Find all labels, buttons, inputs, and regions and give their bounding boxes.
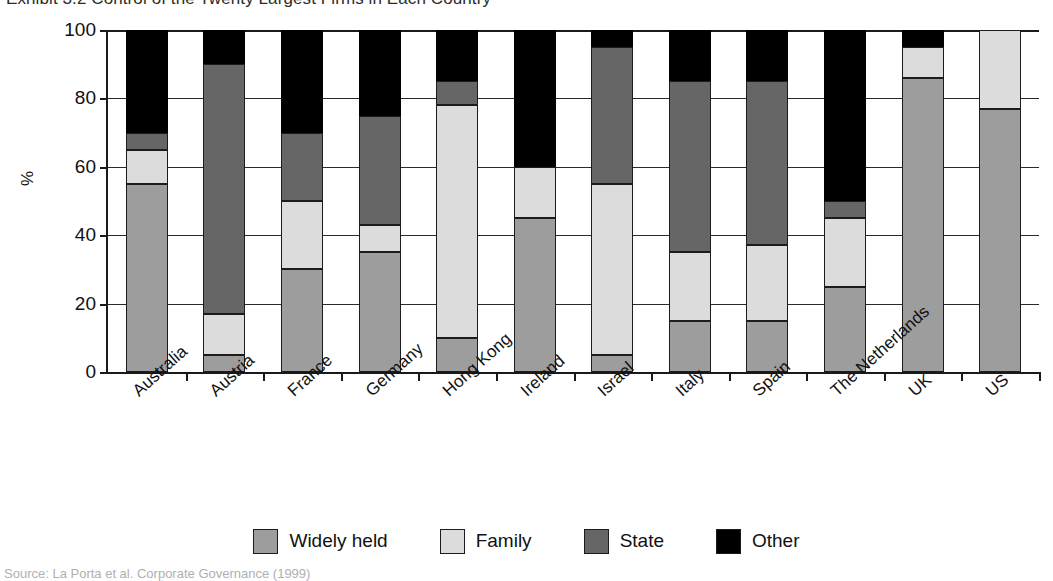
legend-swatch-family-icon: [440, 529, 465, 554]
bar-segment-other[interactable]: [281, 30, 323, 133]
gridline-40: [108, 235, 1039, 236]
x-axis-label-us: US: [982, 370, 1013, 401]
y-tick-40: [100, 235, 108, 237]
bar-segment-widely-held[interactable]: [979, 109, 1021, 372]
bar-segment-other[interactable]: [126, 30, 168, 133]
bar-segment-widely-held[interactable]: [669, 321, 711, 372]
y-tick-20: [100, 304, 108, 306]
bar-segment-family[interactable]: [591, 184, 633, 355]
x-tick-11: [1039, 372, 1041, 381]
bar-segment-family[interactable]: [669, 252, 711, 320]
bar-segment-family[interactable]: [746, 245, 788, 320]
legend-swatch-widely-held-icon: [253, 529, 278, 554]
x-tick-9: [884, 372, 886, 381]
legend-item-family[interactable]: Family: [440, 529, 532, 554]
bar-the-netherlands[interactable]: [824, 30, 866, 372]
x-tick-1: [263, 372, 265, 381]
bar-segment-other[interactable]: [746, 30, 788, 81]
gridline-80: [108, 98, 1039, 99]
y-tick-60: [100, 167, 108, 169]
bar-segment-family[interactable]: [126, 150, 168, 184]
bar-segment-family[interactable]: [514, 167, 556, 218]
bar-segment-state[interactable]: [746, 81, 788, 245]
bar-segment-widely-held[interactable]: [514, 218, 556, 372]
x-tick-8: [806, 372, 808, 381]
gridline-100: [108, 30, 1039, 32]
x-tick-6: [651, 372, 653, 381]
legend-item-other[interactable]: Other: [716, 529, 800, 554]
bar-spain[interactable]: [746, 30, 788, 372]
bar-segment-widely-held[interactable]: [126, 184, 168, 372]
bar-segment-other[interactable]: [359, 30, 401, 116]
bar-segment-state[interactable]: [203, 64, 245, 314]
bar-segment-other[interactable]: [514, 30, 556, 167]
bar-australia[interactable]: [126, 30, 168, 372]
legend-label-widely-held: Widely held: [289, 530, 387, 552]
gridline-20: [108, 304, 1039, 305]
bar-segment-family[interactable]: [436, 105, 478, 338]
legend-swatch-other-icon: [716, 529, 741, 554]
bar-germany[interactable]: [359, 30, 401, 372]
gridline-60: [108, 167, 1039, 168]
bar-segment-state[interactable]: [281, 133, 323, 201]
legend-item-state[interactable]: State: [584, 529, 664, 554]
x-tick-0: [186, 372, 188, 381]
bar-segment-family[interactable]: [359, 225, 401, 252]
bar-segment-other[interactable]: [902, 30, 944, 47]
bar-italy[interactable]: [669, 30, 711, 372]
bar-segment-state[interactable]: [436, 81, 478, 105]
bar-segment-state[interactable]: [591, 47, 633, 184]
chart-legend: Widely heldFamilyStateOther: [0, 524, 1053, 558]
bar-segment-state[interactable]: [126, 133, 168, 150]
x-tick-7: [729, 372, 731, 381]
y-tick-label-20: 20: [75, 293, 96, 315]
bar-segment-family[interactable]: [281, 201, 323, 269]
bar-segment-family[interactable]: [824, 218, 866, 286]
x-tick-5: [574, 372, 576, 381]
bar-segment-other[interactable]: [824, 30, 866, 201]
y-tick-label-40: 40: [75, 224, 96, 246]
y-tick-label-0: 0: [85, 361, 96, 383]
bar-segment-family[interactable]: [902, 47, 944, 78]
bar-segment-state[interactable]: [359, 116, 401, 225]
legend-item-widely-held[interactable]: Widely held: [253, 529, 387, 554]
legend-label-other: Other: [752, 530, 800, 552]
bar-segment-other[interactable]: [203, 30, 245, 64]
bar-segment-state[interactable]: [669, 81, 711, 252]
y-tick-label-80: 80: [75, 87, 96, 109]
bar-segment-other[interactable]: [436, 30, 478, 81]
bar-segment-state[interactable]: [824, 201, 866, 218]
bar-segment-other[interactable]: [669, 30, 711, 81]
x-axis-label-uk: UK: [905, 370, 936, 401]
y-axis-title: %: [18, 171, 38, 186]
source-note: Source: La Porta et al. Corporate Govern…: [4, 566, 310, 581]
bar-france[interactable]: [281, 30, 323, 372]
y-tick-100: [100, 30, 108, 32]
x-tick-3: [418, 372, 420, 381]
bar-hong-kong[interactable]: [436, 30, 478, 372]
y-tick-80: [100, 98, 108, 100]
x-tick-2: [341, 372, 343, 381]
bar-austria[interactable]: [203, 30, 245, 372]
y-tick-label-60: 60: [75, 156, 96, 178]
bar-segment-family[interactable]: [979, 30, 1021, 109]
chart-title: Exhibit 3.2 Control of the Twenty Larges…: [6, 0, 491, 9]
y-tick-0: [100, 372, 108, 374]
bar-segment-other[interactable]: [591, 30, 633, 47]
y-tick-label-100: 100: [64, 19, 96, 41]
x-tick-10: [961, 372, 963, 381]
bar-us[interactable]: [979, 30, 1021, 372]
bar-ireland[interactable]: [514, 30, 556, 372]
x-tick-4: [496, 372, 498, 381]
bar-segment-widely-held[interactable]: [359, 252, 401, 372]
legend-label-family: Family: [476, 530, 532, 552]
bar-israel[interactable]: [591, 30, 633, 372]
legend-swatch-state-icon: [584, 529, 609, 554]
bar-segment-family[interactable]: [203, 314, 245, 355]
legend-label-state: State: [620, 530, 664, 552]
